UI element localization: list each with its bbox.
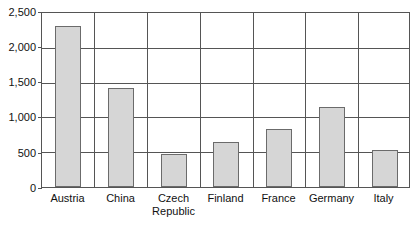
x-tick-label-finland: Finland <box>199 192 252 205</box>
bar-chart: 2,500 2,000 1,500 1,000 500 0 Austria Ch… <box>0 0 418 225</box>
y-tick-label-1000: 1,000 <box>0 111 36 123</box>
bar-germany <box>319 107 345 187</box>
plot-area <box>41 12 410 188</box>
x-tick-label-italy: Italy <box>357 192 410 205</box>
x-tick-label-china: China <box>94 192 147 205</box>
x-tick-label-austria: Austria <box>41 192 94 205</box>
bar-italy <box>372 150 398 187</box>
category-separator-4 <box>253 13 254 187</box>
x-tick-label-germany: Germany <box>305 192 358 205</box>
category-separator-1 <box>94 13 95 187</box>
y-tick-label-2500: 2,500 <box>0 6 36 18</box>
category-separator-2 <box>147 13 148 187</box>
category-separator-3 <box>200 13 201 187</box>
category-separator-5 <box>305 13 306 187</box>
x-tick-label-france: France <box>252 192 305 205</box>
bar-austria <box>55 26 81 187</box>
gridline-1500 <box>42 83 409 84</box>
y-tick-label-500: 500 <box>0 147 36 159</box>
bar-finland <box>213 142 239 187</box>
bar-czech-republic <box>161 154 187 187</box>
bar-china <box>108 88 134 187</box>
x-tick-label-czech-republic: Czech Republic <box>147 192 200 218</box>
bar-france <box>266 129 292 187</box>
y-tick-label-2000: 2,000 <box>0 41 36 53</box>
y-tick-label-0: 0 <box>0 182 36 194</box>
y-tick-label-1500: 1,500 <box>0 76 36 88</box>
category-separator-6 <box>358 13 359 187</box>
y-tick-mark-0 <box>38 188 42 189</box>
gridline-1000 <box>42 117 409 118</box>
gridline-2000 <box>42 48 409 49</box>
